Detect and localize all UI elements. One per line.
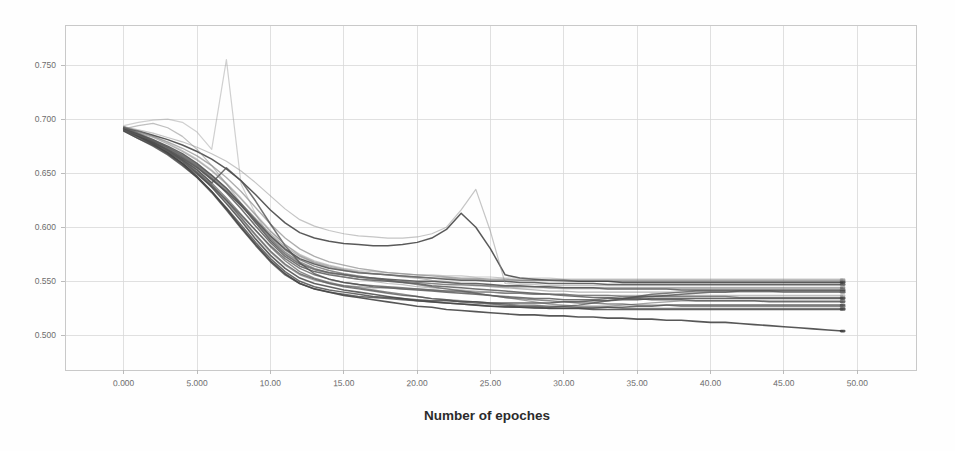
x-tick-label: 40.00 <box>700 378 722 388</box>
x-tick-label: 50.00 <box>847 378 869 388</box>
y-tick-label: 0.750 <box>35 60 57 70</box>
figure-background <box>0 0 955 451</box>
x-axis-title: Number of epoches <box>424 408 550 423</box>
x-tick-label: 10.00 <box>260 378 282 388</box>
chart-figure: 0.0005.00010.0015.0020.0025.0030.0035.00… <box>0 0 955 451</box>
y-tick-label: 0.550 <box>35 276 57 286</box>
x-tick-label: 20.00 <box>406 378 428 388</box>
line-chart: 0.0005.00010.0015.0020.0025.0030.0035.00… <box>0 0 955 451</box>
x-tick-label: 5.000 <box>186 378 208 388</box>
x-tick-label: 25.00 <box>480 378 502 388</box>
y-tick-label: 0.600 <box>35 222 57 232</box>
x-tick-label: 15.00 <box>333 378 355 388</box>
y-tick-label: 0.500 <box>35 330 57 340</box>
x-tick-label: 35.00 <box>626 378 648 388</box>
y-tick-label: 0.700 <box>35 114 57 124</box>
x-tick-label: 30.00 <box>553 378 575 388</box>
y-tick-label: 0.650 <box>35 168 57 178</box>
x-tick-label: 45.00 <box>773 378 795 388</box>
x-tick-label: 0.000 <box>113 378 135 388</box>
